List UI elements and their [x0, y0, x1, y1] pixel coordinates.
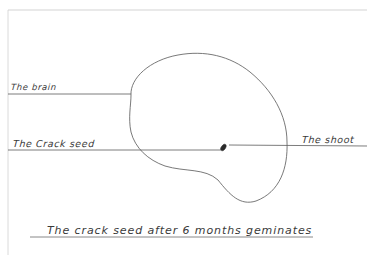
label-brain: The brain	[11, 82, 57, 92]
label-crack-seed: The Crack seed	[13, 138, 96, 149]
shoot-pointer-line	[229, 145, 367, 146]
diagram-caption: The crack seed after 6 months geminates	[47, 224, 312, 237]
diagram-canvas	[0, 0, 375, 255]
label-shoot: The shoot	[302, 134, 355, 145]
seed-dot-icon	[221, 144, 227, 151]
seed-outline	[130, 53, 287, 202]
